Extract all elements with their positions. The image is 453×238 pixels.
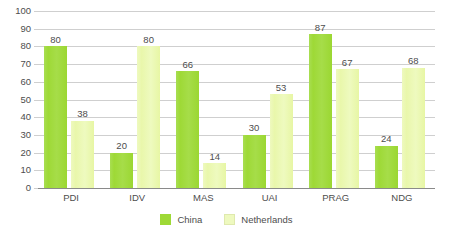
bar-netherlands-prag[interactable]: 67 xyxy=(336,69,359,188)
bar-netherlands-mas[interactable]: 14 xyxy=(203,163,226,188)
y-tick-label: 0 xyxy=(26,183,31,193)
bar-value-label: 80 xyxy=(50,35,61,45)
x-tick-label-idv: IDV xyxy=(104,193,170,203)
bar-value-label: 66 xyxy=(183,60,194,70)
chart-legend: ChinaNetherlands xyxy=(0,214,453,225)
bar-value-label: 30 xyxy=(249,123,260,133)
bar-group: 2468 xyxy=(369,11,435,188)
bar-chart: 0102030405060708090100 80382080661430538… xyxy=(0,0,453,238)
bar-group: 6614 xyxy=(170,11,236,188)
x-tick-label-prag: PRAG xyxy=(303,193,369,203)
y-axis: 0102030405060708090100 xyxy=(0,0,38,238)
legend-swatch-china xyxy=(160,214,171,225)
bar-group: 8038 xyxy=(38,11,104,188)
y-tick-label: 30 xyxy=(20,130,31,140)
y-tick-label: 70 xyxy=(20,59,31,69)
bar-netherlands-pdi[interactable]: 38 xyxy=(71,121,94,188)
bar-value-label: 68 xyxy=(408,56,419,66)
bar-value-label: 53 xyxy=(276,83,287,93)
bar-china-uai[interactable]: 30 xyxy=(243,135,266,188)
bar-group: 3053 xyxy=(237,11,303,188)
x-tick-label-uai: UAI xyxy=(237,193,303,203)
bar-china-pdi[interactable]: 80 xyxy=(44,46,67,188)
bar-netherlands-uai[interactable]: 53 xyxy=(270,94,293,188)
y-tick-label: 20 xyxy=(20,148,31,158)
bar-group: 8767 xyxy=(303,11,369,188)
x-tick-label-mas: MAS xyxy=(170,193,236,203)
bar-value-label: 38 xyxy=(77,109,88,119)
bar-value-label: 87 xyxy=(315,23,326,33)
y-tick-label: 100 xyxy=(15,6,31,16)
bar-china-idv[interactable]: 20 xyxy=(110,153,133,188)
bar-value-label: 14 xyxy=(210,152,221,162)
x-tick-label-pdi: PDI xyxy=(38,193,104,203)
y-tick-label: 60 xyxy=(20,77,31,87)
bar-value-label: 24 xyxy=(381,134,392,144)
bar-value-label: 20 xyxy=(116,141,127,151)
bar-value-label: 80 xyxy=(143,35,154,45)
axis-baseline xyxy=(38,188,435,189)
y-tick-label: 50 xyxy=(20,95,31,105)
legend-item-china[interactable]: China xyxy=(160,214,202,225)
legend-item-netherlands[interactable]: Netherlands xyxy=(224,214,292,225)
legend-label: China xyxy=(177,215,202,225)
bar-value-label: 67 xyxy=(342,58,353,68)
x-tick-label-ndg: NDG xyxy=(369,193,435,203)
bar-netherlands-idv[interactable]: 80 xyxy=(137,46,160,188)
bar-china-mas[interactable]: 66 xyxy=(176,71,199,188)
bar-group: 2080 xyxy=(104,11,170,188)
y-tick-label: 10 xyxy=(20,166,31,176)
legend-swatch-netherlands xyxy=(224,214,235,225)
legend-label: Netherlands xyxy=(241,215,292,225)
y-tick-label: 40 xyxy=(20,112,31,122)
bar-china-ndg[interactable]: 24 xyxy=(375,146,398,188)
plot-area: 803820806614305387672468 xyxy=(38,11,435,188)
bar-netherlands-ndg[interactable]: 68 xyxy=(402,68,425,188)
y-tick-label: 80 xyxy=(20,42,31,52)
y-tick-label: 90 xyxy=(20,24,31,34)
bar-china-prag[interactable]: 87 xyxy=(309,34,332,188)
